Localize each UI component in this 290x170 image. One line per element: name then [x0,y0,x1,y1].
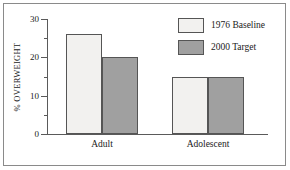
legend-swatch-2000-target [178,40,204,55]
y-axis-title-wrap: % OVERWEIGHT [10,19,24,134]
y-tick-label-10: 10 [17,92,39,101]
legend-item-2000-target: 2000 Target [178,38,280,56]
chart-legend: 1976 Baseline 2000 Target [178,16,280,60]
y-tick-minor-15 [44,77,48,78]
overweight-bar-chart: % OVERWEIGHT 0 10 20 30 Adult Adolescent… [0,0,290,170]
x-category-label-adolescent: Adolescent [172,139,244,149]
legend-label-2000-target: 2000 Target [211,42,256,52]
y-tick-0 [41,134,48,135]
y-tick-minor-5 [44,115,48,116]
legend-label-1976-baseline: 1976 Baseline [211,20,265,30]
bar-adolescent-1976-baseline [172,77,208,135]
y-tick-30 [41,19,48,20]
x-category-label-adult: Adult [66,139,138,149]
x-axis-line [47,134,268,135]
y-tick-10 [41,96,48,97]
bar-adult-1976-baseline [66,34,102,134]
y-tick-label-0: 0 [17,130,39,139]
y-tick-label-20: 20 [17,53,39,62]
y-tick-20 [41,57,48,58]
y-tick-minor-25 [44,38,48,39]
legend-item-1976-baseline: 1976 Baseline [178,16,280,34]
legend-swatch-1976-baseline [178,18,204,33]
y-tick-label-30: 30 [17,15,39,24]
bar-adult-2000-target [102,57,138,134]
bar-adolescent-2000-target [208,77,244,135]
